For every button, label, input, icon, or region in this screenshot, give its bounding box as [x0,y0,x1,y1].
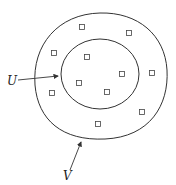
outer-set-label: V [63,169,73,183]
inner-set-boundary [61,39,139,109]
set-diagram: U V [0,0,176,185]
point [77,81,82,86]
point [52,51,57,56]
point [85,55,90,60]
point [140,110,145,115]
point [105,90,110,95]
point [127,31,132,36]
point [80,25,85,30]
inner-set-arrow [18,76,58,80]
point [150,71,155,76]
point [96,122,101,127]
point [50,91,55,96]
inner-set-label: U [7,74,18,88]
outer-set-arrow [70,142,81,170]
point [120,72,125,77]
